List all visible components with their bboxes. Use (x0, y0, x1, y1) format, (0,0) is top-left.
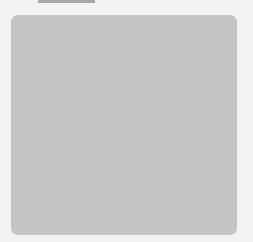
board-grid (0, 0, 253, 242)
